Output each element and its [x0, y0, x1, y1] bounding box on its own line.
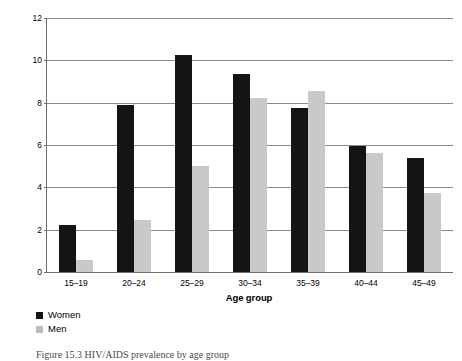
y-tick-label: 0 — [37, 268, 42, 277]
bar-group — [163, 18, 221, 272]
bar-women-35-39 — [291, 108, 308, 272]
x-tick-label: 25–29 — [163, 279, 221, 288]
bar-group — [279, 18, 337, 272]
bar-men-15-19 — [76, 260, 93, 272]
x-tick-label: 15–19 — [47, 279, 105, 288]
legend-swatch-men-icon — [36, 326, 43, 333]
x-tick-label: 20–24 — [105, 279, 163, 288]
y-tick-label: 12 — [33, 14, 42, 23]
bar-men-35-39 — [308, 91, 325, 272]
x-tick-label: 45–49 — [395, 279, 453, 288]
bar-group — [105, 18, 163, 272]
bar-women-25-29 — [175, 55, 192, 272]
y-tick-mark — [44, 272, 47, 273]
legend-label: Women — [48, 310, 81, 320]
bar-group — [47, 18, 105, 272]
legend-swatch-women-icon — [36, 312, 43, 319]
y-tick-label: 2 — [37, 225, 42, 234]
bar-men-20-24 — [134, 220, 151, 272]
bar-men-45-49 — [424, 193, 441, 272]
bar-women-45-49 — [407, 158, 424, 272]
y-tick-label: 6 — [37, 141, 42, 150]
bar-men-40-44 — [366, 153, 383, 272]
x-tick-label: 40–44 — [337, 279, 395, 288]
bar-women-30-34 — [233, 74, 250, 272]
y-tick-label: 4 — [37, 183, 42, 192]
x-tick-label: 35–39 — [279, 279, 337, 288]
gridline — [47, 272, 453, 273]
x-tick-label: 30–34 — [221, 279, 279, 288]
y-tick-label: 8 — [37, 98, 42, 107]
legend-item-women: Women — [36, 308, 81, 322]
bar-women-20-24 — [117, 105, 134, 272]
chart-legend: WomenMen — [36, 308, 81, 336]
bar-women-40-44 — [349, 146, 366, 272]
plot-area: 024681012 15–1920–2425–2930–3435–3940–44… — [46, 18, 453, 273]
legend-label: Men — [48, 324, 66, 334]
bar-group — [221, 18, 279, 272]
y-tick-label: 10 — [33, 56, 42, 65]
bar-group — [395, 18, 453, 272]
figure-caption: Figure 15.3 HIV/AIDS prevalence by age g… — [36, 349, 456, 361]
bar-men-25-29 — [192, 166, 209, 272]
bar-women-15-19 — [59, 225, 76, 272]
legend-item-men: Men — [36, 322, 81, 336]
bar-group — [337, 18, 395, 272]
bars-group — [47, 18, 453, 272]
bar-men-30-34 — [250, 98, 267, 272]
x-axis-title: Age group — [46, 292, 452, 303]
